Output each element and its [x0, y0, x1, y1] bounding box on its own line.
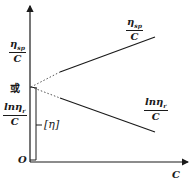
x-axis-label: C	[172, 170, 180, 180]
numerator-subscript: r	[22, 107, 25, 114]
left-ln-eta-r-over-c-label: lnηr C	[3, 102, 27, 127]
eta-sp-over-c-extrapolation	[31, 72, 60, 87]
left-eta-sp-over-c-label: ηsp C	[9, 39, 26, 64]
ln-eta-r-over-c-extrapolation	[31, 87, 60, 98]
intrinsic-viscosity-diagram: ηsp C 或 lnηr C [η] O C ηsp C lnηr C	[0, 0, 193, 187]
fraction-numerator: lnηr	[3, 102, 27, 114]
fraction-denominator: C	[13, 54, 21, 64]
numerator-subscript: r	[163, 102, 166, 109]
numerator-subscript: sp	[17, 44, 25, 51]
fraction-numerator: lnηr	[144, 97, 168, 109]
eta-sp-over-c-line	[60, 37, 155, 72]
fraction-denominator: C	[152, 112, 160, 122]
fraction-numerator: ηsp	[9, 39, 26, 51]
diagram-canvas	[0, 0, 193, 187]
numerator-subscript: sp	[134, 22, 142, 29]
right-ln-eta-r-over-c-label: lnηr C	[144, 97, 168, 122]
intrinsic-viscosity-label: [η]	[44, 119, 59, 130]
origin-label: O	[18, 155, 27, 165]
or-label: 或	[10, 80, 20, 95]
right-eta-sp-over-c-label: ηsp C	[126, 17, 143, 42]
fraction-numerator: ηsp	[126, 17, 143, 29]
numerator-symbol: lnη	[145, 96, 163, 107]
ln-eta-r-over-c-line	[60, 98, 155, 132]
fraction-denominator: C	[130, 32, 138, 42]
fraction-denominator: C	[11, 117, 19, 127]
numerator-symbol: lnη	[4, 101, 22, 112]
